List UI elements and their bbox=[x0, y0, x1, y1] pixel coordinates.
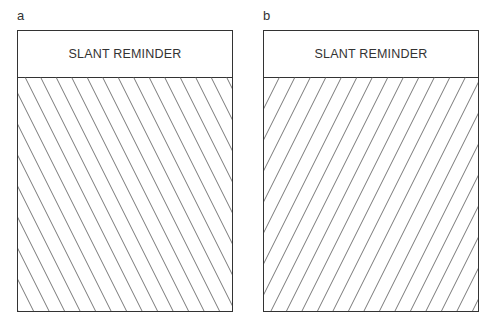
panel-b: SLANT REMINDER bbox=[263, 30, 479, 312]
panel-b-label: b bbox=[263, 8, 270, 23]
panel-a-label: a bbox=[17, 8, 24, 23]
panel-a-backslash-hatch bbox=[18, 77, 232, 311]
panel-a-header: SLANT REMINDER bbox=[18, 31, 232, 78]
panel-b-forward-slash-hatch bbox=[264, 77, 478, 311]
panel-a: SLANT REMINDER bbox=[17, 30, 233, 312]
panel-b-header: SLANT REMINDER bbox=[264, 31, 478, 78]
